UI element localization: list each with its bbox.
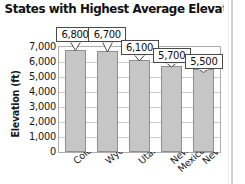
x-axis-tick-labels: ColoradoWyomingUtahNewMexicoNevada	[0, 152, 245, 184]
y-axis-tick-label: 6,000	[18, 56, 56, 67]
page-edge-artifact	[231, 0, 233, 184]
page-edge-artifact-inner	[228, 0, 229, 184]
y-axis-tick-label: 7,000	[18, 41, 56, 52]
callout-pointer	[134, 55, 145, 62]
y-axis-tick-label: 2,000	[18, 116, 56, 127]
y-axis-tick-label: 1,000	[18, 131, 56, 142]
bar	[129, 60, 150, 152]
y-axis-tick-label: 5,000	[18, 71, 56, 82]
chart-figure: States with Highest Average Elevation El…	[0, 0, 245, 184]
callout-pointer	[70, 42, 81, 51]
callout-pointer	[198, 69, 209, 73]
bar	[65, 50, 86, 152]
bar	[97, 51, 118, 152]
x-axis-tick-label: Utah	[136, 152, 160, 166]
callout-pointer	[166, 63, 177, 68]
y-axis-tick-label: 3,000	[18, 101, 56, 112]
callout-pointer	[102, 42, 113, 53]
x-axis-tick-label: NewMexico	[168, 152, 207, 174]
bar-value-callout: 5,500	[185, 54, 223, 69]
y-axis-tick-label: 4,000	[18, 86, 56, 97]
bar	[193, 69, 214, 152]
bar	[161, 66, 182, 152]
